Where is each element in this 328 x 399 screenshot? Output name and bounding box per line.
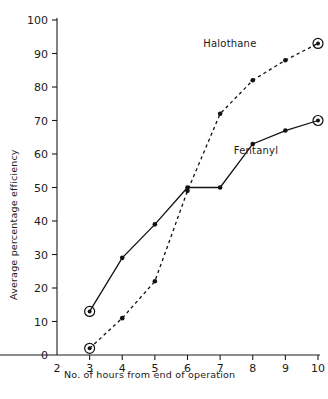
chart-container: 0102030405060708090100 2345678910 Haloth… xyxy=(0,0,328,399)
y-tick-label: 90 xyxy=(34,48,48,61)
data-point-markers xyxy=(85,38,323,353)
x-tick-label: 2 xyxy=(54,362,61,375)
y-tick-label: 60 xyxy=(34,148,48,161)
data-point xyxy=(283,58,288,63)
series-line-halothane xyxy=(90,43,318,348)
data-point xyxy=(88,346,92,350)
data-point xyxy=(153,279,158,284)
y-tick-label: 10 xyxy=(34,316,48,329)
data-series-group xyxy=(90,43,318,348)
data-point xyxy=(316,41,320,45)
y-tick-label: 80 xyxy=(34,81,48,94)
x-tick-label: 8 xyxy=(249,362,256,375)
data-point xyxy=(120,256,125,261)
series-label-halothane: Halothane xyxy=(203,38,256,49)
data-point xyxy=(250,78,255,83)
data-point xyxy=(316,119,320,123)
data-point xyxy=(218,185,223,190)
data-point xyxy=(283,128,288,133)
data-point xyxy=(88,309,92,313)
y-tick-label: 100 xyxy=(27,14,48,27)
y-axis-title: Average percentage efficiency xyxy=(8,149,19,300)
y-tick-label: 70 xyxy=(34,115,48,128)
x-tick-label: 10 xyxy=(311,362,325,375)
y-tick-label: 50 xyxy=(34,182,48,195)
data-point xyxy=(218,112,223,117)
series-line-fentanyl xyxy=(90,121,318,312)
x-axis-title: No. of hours from end of operation xyxy=(64,369,235,380)
y-tick-label: 40 xyxy=(34,215,48,228)
y-tick-label: 30 xyxy=(34,249,48,262)
data-point xyxy=(185,189,190,194)
data-point xyxy=(153,222,158,227)
y-axis-ticks: 0102030405060708090100 xyxy=(27,14,57,362)
data-point xyxy=(120,316,125,321)
y-tick-label: 20 xyxy=(34,282,48,295)
series-label-fentanyl: Fentanyl xyxy=(234,145,278,156)
line-chart: 0102030405060708090100 2345678910 Haloth… xyxy=(0,0,328,399)
x-tick-label: 9 xyxy=(282,362,289,375)
